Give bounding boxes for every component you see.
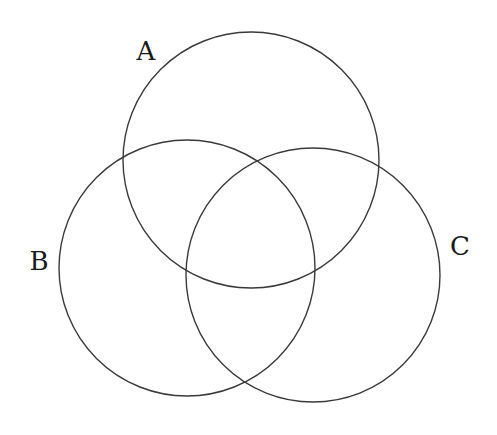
circle-b <box>59 140 315 396</box>
circle-c <box>186 148 440 402</box>
label-c: C <box>450 231 470 261</box>
circle-a <box>123 32 379 288</box>
label-b: B <box>29 246 48 276</box>
venn-diagram-canvas: A B C <box>0 0 497 435</box>
venn-diagram: A B C <box>0 0 497 435</box>
label-a: A <box>136 36 157 66</box>
